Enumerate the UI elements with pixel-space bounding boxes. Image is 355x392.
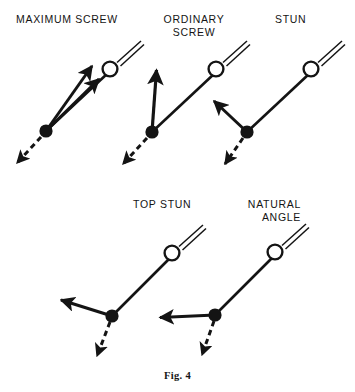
panel-maximum-screw — [17, 41, 144, 163]
object-ball-contact-point — [208, 308, 221, 321]
figure-4-diagram: MAXIMUM SCREW ORDINARY SCREW STUN TOP ST… — [0, 0, 355, 392]
cue-stick-edge-upper — [117, 41, 141, 63]
cue-ball — [268, 245, 283, 260]
object-ball-path-dashed-arrow — [123, 138, 147, 164]
aim-line — [112, 258, 170, 316]
cue-stick-edge-upper — [179, 225, 203, 247]
panel-top-stun — [61, 225, 206, 356]
cue-ball — [103, 62, 118, 77]
cue-stick-edge-upper — [282, 224, 306, 246]
figure-caption: Fig. 4 — [0, 370, 355, 381]
cue-ball — [165, 246, 180, 261]
cue-ball — [209, 62, 224, 77]
cue-ball-path-arrow-vertical — [152, 70, 157, 132]
object-ball-contact-point — [145, 125, 158, 138]
cue-ball-path-arrow — [61, 300, 112, 316]
label-top-stun: TOP STUN — [133, 198, 211, 211]
cue-ball-path-arrow — [214, 101, 247, 132]
aim-line — [215, 257, 273, 315]
object-ball-path-dashed-arrow — [225, 138, 243, 164]
aim-line — [247, 74, 309, 132]
cue-ball-path-arrow — [160, 315, 215, 318]
aim-line — [152, 74, 214, 132]
object-ball-path-dashed-arrow — [202, 321, 214, 355]
label-natural-angle: NATURAL ANGLE — [215, 198, 301, 223]
object-ball-contact-point — [105, 309, 118, 322]
label-stun: STUN — [275, 13, 335, 26]
cue-ball-path-arrow-shallow — [46, 79, 99, 131]
cue-ball — [304, 62, 319, 77]
label-ordinary-screw: ORDINARY SCREW — [148, 13, 240, 38]
label-maximum-screw: MAXIMUM SCREW — [16, 13, 146, 26]
object-ball-contact-point — [39, 124, 52, 137]
object-ball-path-dashed-arrow — [97, 322, 110, 356]
cue-stick-edge-upper — [223, 41, 247, 63]
panel-ordinary-screw — [123, 41, 250, 164]
cue-ball-path-arrow-steep — [46, 66, 92, 131]
object-ball-contact-point — [240, 125, 253, 138]
cue-stick-edge-upper — [318, 41, 342, 63]
shot-diagram-canvas — [0, 0, 355, 392]
object-ball-path-dashed-arrow — [17, 137, 41, 163]
